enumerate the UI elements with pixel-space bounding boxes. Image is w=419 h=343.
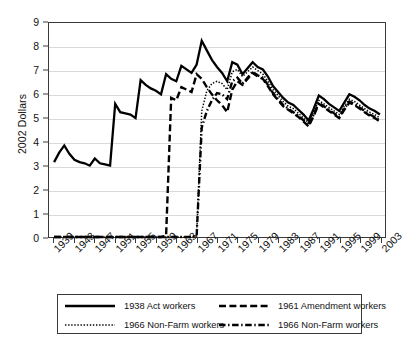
- y-tick-label: 1: [33, 208, 39, 220]
- y-tick-label: 6: [33, 88, 39, 100]
- y-tick-label: 2: [33, 184, 39, 196]
- legend-item: 1966 Non-Farm workers: [64, 315, 224, 335]
- series-line-1: [54, 41, 380, 166]
- legend-line-swatch: [218, 319, 270, 331]
- series-line-2: [54, 73, 380, 237]
- x-axis-tick-group: 1939194319471951195519591963196719711975…: [48, 238, 386, 290]
- minimum-wage-line-chart: 2002 Dollars 0123456789 1939194319471951…: [0, 0, 419, 343]
- legend-item: 1961 Amendment workers: [218, 296, 386, 316]
- legend-label: 1961 Amendment workers: [278, 301, 386, 311]
- y-tick-label: 8: [33, 40, 39, 52]
- legend-item: 1966 Non-Farm workers: [218, 315, 378, 335]
- legend-item: 1938 Act workers: [64, 296, 195, 316]
- legend-line-swatch: [218, 300, 270, 312]
- y-tick-label: 4: [33, 136, 39, 148]
- legend-line-swatch: [64, 319, 116, 331]
- y-tick-label: 3: [33, 160, 39, 172]
- legend-label: 1938 Act workers: [124, 301, 195, 311]
- series-line-4: [54, 72, 380, 237]
- plot-area: [48, 22, 386, 238]
- y-tick-label: 0: [33, 232, 39, 244]
- y-tick-label: 7: [33, 64, 39, 76]
- chart-legend: 1938 Act workers1961 Amendment workers19…: [57, 294, 362, 334]
- legend-label: 1966 Non-Farm workers: [278, 320, 378, 330]
- series-svg: [49, 23, 385, 237]
- y-tick-label: 9: [33, 16, 39, 28]
- y-axis-tick-group: 0123456789: [0, 22, 48, 238]
- legend-label: 1966 Non-Farm workers: [124, 320, 224, 330]
- legend-line-swatch: [64, 300, 116, 312]
- y-tick-label: 5: [33, 112, 39, 124]
- series-layer: [49, 23, 385, 237]
